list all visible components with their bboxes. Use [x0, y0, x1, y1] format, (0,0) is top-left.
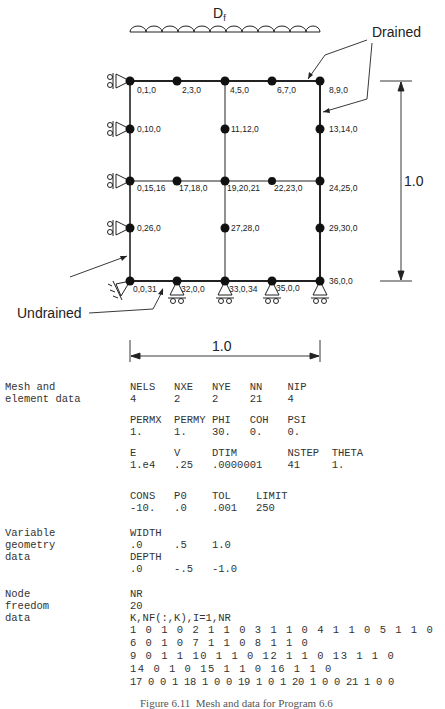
- node: [316, 125, 325, 134]
- undrained-label: Undrained: [17, 305, 82, 321]
- width-dim-label: 1.0: [212, 338, 232, 354]
- node-label: 0,26,0: [137, 223, 161, 233]
- node: [126, 125, 135, 134]
- param-headers: NELS NXE NYE NN NIP: [130, 381, 306, 393]
- param-headers: PERMX PERMY PHI COH PSI: [130, 414, 306, 426]
- node-label: 19,20,21: [227, 183, 260, 193]
- freedom-line: 1 0 1 0 2 1 1 0 3 1 1 0 4 1 1 0 5 1 1 0: [130, 624, 434, 636]
- nr-header: NR: [130, 588, 143, 600]
- node-labels: 0,1,0 2,3,0 4,5,0 6,7,0 8,9,0 0,10,0 11,…: [133, 85, 358, 294]
- left-roller-supports: [108, 73, 131, 236]
- node-label: 13,14,0: [329, 124, 358, 134]
- node-label: 0,1,0: [137, 85, 156, 95]
- section-label: element data: [5, 393, 81, 405]
- depth-header: DEPTH: [130, 551, 162, 563]
- node: [126, 77, 135, 86]
- node: [221, 224, 230, 233]
- node-label: 0,0,31: [133, 284, 157, 294]
- node-label: 2,3,0: [182, 85, 201, 95]
- node: [221, 125, 230, 134]
- list-header: K,NF(:,K),I=1,NR: [130, 612, 231, 624]
- depth-values: .0 -.5 -1.0: [130, 563, 237, 575]
- node-label: 33,0,34: [229, 284, 258, 294]
- param-values: -10. .0 .001 250: [130, 502, 275, 514]
- param-values: 4 2 2 21 4: [130, 393, 294, 405]
- freedom-line: 6 0 1 0 7 1 1 0 8 1 1 0: [130, 637, 309, 649]
- node-label: 36,0,0: [329, 276, 353, 286]
- section-label: Node: [5, 588, 30, 600]
- mesh-diagram: Df: [0, 0, 445, 370]
- node-label: 22,23,0: [274, 183, 303, 193]
- node-label: 0,10,0: [137, 124, 161, 134]
- width-dimension: 1.0: [130, 338, 320, 362]
- figure-caption: Figure 6.11 Mesh and data for Program 6.…: [140, 697, 333, 709]
- param-values: 1.e4 .25 .0000001 41 1.: [130, 459, 344, 471]
- node: [316, 77, 325, 86]
- node: [316, 224, 325, 233]
- drained-annotation: Drained: [308, 24, 421, 113]
- node: [126, 177, 135, 186]
- section-label: data: [5, 551, 30, 563]
- node-label: 35,0,0: [276, 283, 300, 293]
- width-values: .0 .5 1.0: [130, 539, 231, 551]
- height-dimension: 1.0: [380, 81, 424, 281]
- node: [221, 77, 230, 86]
- height-dim-label: 1.0: [404, 173, 424, 189]
- load-label: Df: [213, 5, 226, 23]
- node-label: 17,18,0: [179, 183, 208, 193]
- param-values: 1. 1. 30. 0. 0.: [130, 426, 300, 438]
- param-headers: CONS P0 TOL LIMIT: [130, 490, 288, 502]
- node-label: 29,30,0: [329, 223, 358, 233]
- freedom-line: 17 0 0 1 18 1 0 0 19 1 0 1 20 1 0 0 21 1…: [130, 676, 394, 688]
- node-label: 4,5,0: [230, 85, 249, 95]
- section-label: Mesh and: [5, 381, 55, 393]
- drained-label: Drained: [372, 24, 421, 40]
- node: [316, 277, 325, 286]
- node-label: 8,9,0: [329, 85, 348, 95]
- node: [268, 77, 277, 86]
- freedom-line: 9 0 1 1 10 1 1 0 12 1 1 0 13 1 1 0: [130, 650, 395, 662]
- section-label: freedom: [5, 600, 49, 612]
- section-label: geometry: [5, 539, 55, 551]
- node-label: 27,28,0: [231, 223, 260, 233]
- freedom-line: 14 0 1 0 15 1 1 0 16 1 1 0: [130, 663, 333, 675]
- node-label: 32,0,0: [181, 284, 205, 294]
- section-label: data: [5, 612, 30, 624]
- distributed-load: Df: [130, 5, 320, 32]
- node-label: 11,12,0: [231, 124, 259, 134]
- section-label: Variable: [5, 527, 55, 539]
- param-headers: E V DTIM NSTEP THETA: [130, 447, 363, 459]
- nr-value: 20: [130, 600, 143, 612]
- node: [316, 177, 325, 186]
- width-header: WIDTH: [130, 527, 162, 539]
- node-label: 6,7,0: [277, 85, 296, 95]
- node: [126, 224, 135, 233]
- node: [173, 77, 182, 86]
- node-label: 24,25,0: [329, 183, 358, 193]
- node-label: 0,15,16: [137, 183, 166, 193]
